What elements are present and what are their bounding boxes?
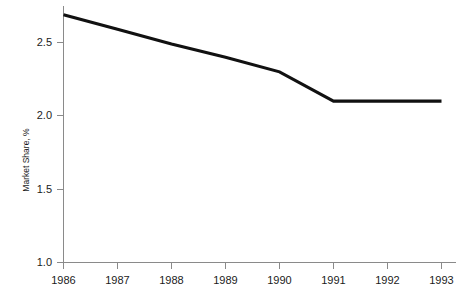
x-tick-label: 1993 (429, 274, 453, 286)
x-tick-label: 1991 (321, 274, 345, 286)
y-axis-title: Market Share, % (21, 128, 31, 192)
x-tick-label: 1988 (159, 274, 183, 286)
line-chart: 2.5 2.0 1.5 1.0 1986 1987 1988 1989 1990… (0, 0, 465, 294)
y-tick-label: 2.0 (37, 109, 52, 121)
y-tick-label: 1.0 (37, 256, 52, 268)
chart-background (0, 0, 465, 294)
x-tick-label: 1992 (375, 274, 399, 286)
x-tick-label: 1987 (105, 274, 129, 286)
y-tick-label: 1.5 (37, 183, 52, 195)
x-tick-label: 1989 (213, 274, 237, 286)
x-tick-label: 1990 (267, 274, 291, 286)
y-tick-label: 2.5 (37, 36, 52, 48)
chart-canvas: 2.5 2.0 1.5 1.0 1986 1987 1988 1989 1990… (0, 0, 465, 294)
x-tick-label: 1986 (51, 274, 75, 286)
